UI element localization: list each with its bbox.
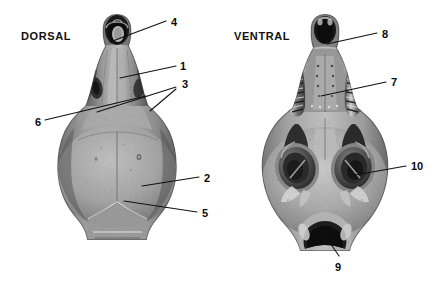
- callout-leader-lines: [0, 0, 441, 286]
- callout-label-1: 1: [180, 60, 186, 72]
- view-title-ventral: VENTRAL: [234, 30, 290, 42]
- leader-line-1: [120, 66, 176, 78]
- callout-label-5: 5: [202, 207, 208, 219]
- leader-line-9: [320, 228, 339, 256]
- anatomy-figure: DORSAL VENTRAL 4 1 3 6 2 5 8 7 10 9: [0, 0, 441, 286]
- leader-line-10: [355, 166, 406, 175]
- leader-line-2: [142, 177, 199, 186]
- callout-label-6: 6: [35, 116, 41, 128]
- callout-label-8: 8: [382, 28, 388, 40]
- leader-line-5: [124, 201, 197, 212]
- leader-line-4: [110, 21, 166, 42]
- callout-label-7: 7: [391, 76, 397, 88]
- leader-line-8: [327, 33, 377, 44]
- leader-line-6: [45, 96, 146, 120]
- callout-label-9: 9: [335, 261, 341, 273]
- leader-line-7: [321, 82, 386, 96]
- callout-label-4: 4: [171, 16, 177, 28]
- callout-label-2: 2: [204, 172, 210, 184]
- leader-line-3-2: [150, 89, 176, 111]
- view-title-dorsal: DORSAL: [21, 30, 71, 42]
- callout-label-10: 10: [411, 160, 423, 172]
- callout-label-3: 3: [182, 78, 188, 90]
